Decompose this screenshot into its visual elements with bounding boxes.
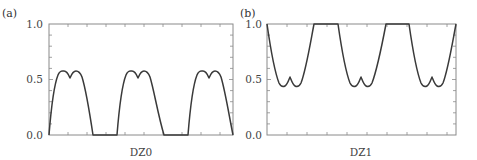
- panel-a-curve: [49, 71, 233, 135]
- panel-a-ytick-0.0: 0.0: [26, 129, 43, 141]
- panel-a: (a) 1.0 0.5 0.0 DZ0: [2, 7, 233, 158]
- panel-b-ytick-0.0: 0.0: [245, 129, 262, 141]
- panel-b-curve: [267, 24, 456, 87]
- panel-b-ytick-0.5: 0.5: [245, 73, 262, 85]
- panel-b-xlabel: DZ1: [350, 146, 372, 158]
- panel-a-xlabel: DZ0: [130, 146, 152, 158]
- panel-b: (b) 1.0 0.5 0.0 DZ1: [240, 7, 456, 158]
- panel-a-ytick-1.0: 1.0: [26, 18, 43, 30]
- panel-a-ticks: [49, 24, 233, 135]
- panel-b-ytick-1.0: 1.0: [245, 18, 262, 30]
- panel-a-axes-frame: [49, 24, 233, 135]
- panel-a-label: (a): [2, 7, 17, 20]
- panel-a-ytick-0.5: 0.5: [26, 73, 43, 85]
- figure: (a) 1.0 0.5 0.0 DZ0: [0, 0, 477, 160]
